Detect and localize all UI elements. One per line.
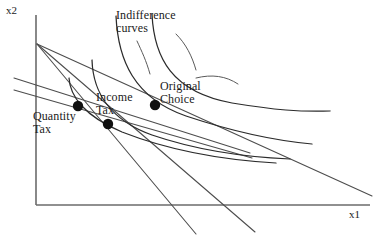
indifference-curves-label: Indifference curves <box>116 9 176 35</box>
indifference-curve-original <box>116 16 312 144</box>
original-choice-label: Original Choice <box>160 80 201 106</box>
y-axis-label: x2 <box>6 5 17 17</box>
leader-indifference-to-curve-right-line <box>176 34 196 70</box>
quantity-tax-label: Quantity Tax <box>33 110 76 136</box>
leader-indifference-to-curve-left-line <box>137 41 150 74</box>
quantity-tax-budget-line-inner <box>37 44 255 232</box>
original-budget-line <box>37 44 372 196</box>
income-tax-choice-point <box>103 119 113 129</box>
indifference-curve-figure: x2 x1 Indifference curves Original Choic… <box>0 0 388 245</box>
income-tax-label: Income Tax <box>96 91 133 117</box>
leader-lines-group <box>137 34 238 84</box>
x-axis-label: x1 <box>349 209 360 221</box>
original-choice-point <box>150 100 160 110</box>
leader-original-choice-to-point-line <box>196 76 238 84</box>
